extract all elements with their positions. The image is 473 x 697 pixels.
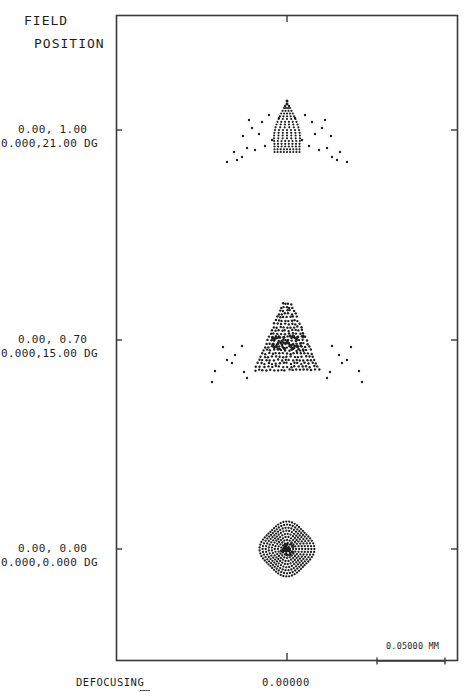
defocusing-underline xyxy=(140,690,150,691)
scale-bar-line xyxy=(377,658,445,665)
defocusing-label: DEFOCUSING xyxy=(76,676,144,688)
defocusing-value: 0.00000 xyxy=(262,676,310,688)
spot-points xyxy=(211,100,363,578)
spot-diagram-plot xyxy=(0,0,473,697)
scale-bar-label: 0.05000 MM xyxy=(386,641,439,651)
